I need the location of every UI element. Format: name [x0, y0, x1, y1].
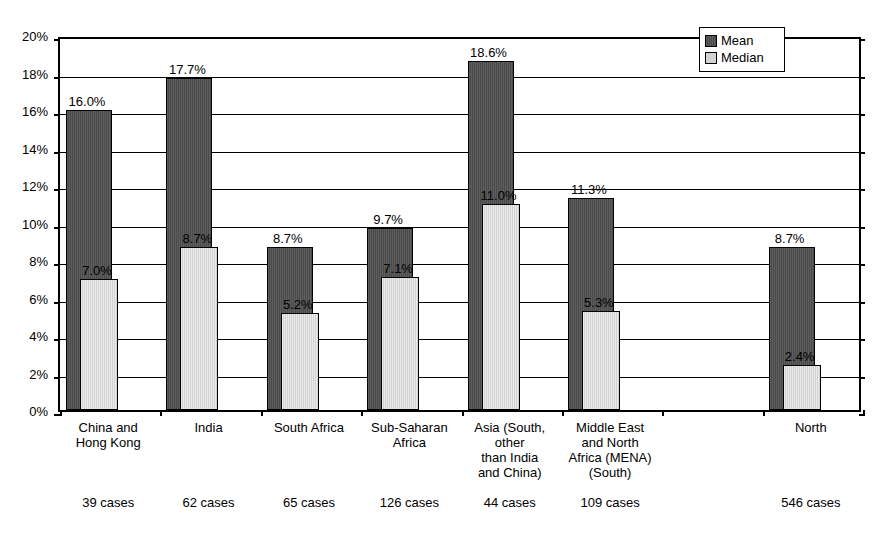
y-axis-tick — [54, 264, 60, 266]
y-axis-tick-label: 0% — [0, 405, 48, 418]
x-axis-tick — [863, 410, 865, 416]
y-axis-tick — [54, 114, 60, 116]
y-axis-tick-right — [859, 339, 865, 341]
y-axis-tick — [54, 302, 60, 304]
bar-label-mean: 9.7% — [358, 213, 418, 226]
y-axis-tick-label: 4% — [0, 330, 48, 343]
bar-label-median: 11.0% — [469, 189, 529, 202]
y-axis-tick-right — [859, 189, 865, 191]
y-axis-tick — [54, 152, 60, 154]
y-axis-tick-right — [859, 152, 865, 154]
bar-label-median: 2.4% — [770, 350, 830, 363]
category-cases-label: 44 cases — [455, 495, 565, 510]
legend-swatch-mean-icon — [705, 35, 717, 47]
bar-label-median: 7.1% — [368, 262, 428, 275]
category-cases-label: 65 cases — [254, 495, 364, 510]
x-axis-category-label: India — [154, 420, 264, 435]
x-axis-category-label: North — [756, 420, 866, 435]
chart-legend: Mean Median — [699, 27, 785, 72]
y-axis-tick-right — [859, 264, 865, 266]
x-axis-tick — [60, 410, 62, 416]
legend-item-median: Median — [705, 49, 779, 66]
y-axis-tick-right — [859, 377, 865, 379]
x-axis-tick — [763, 410, 765, 416]
y-axis-tick-right — [859, 227, 865, 229]
x-axis-category-label: Asia (South, other than India and China) — [455, 420, 565, 480]
y-axis-tick — [54, 227, 60, 229]
bar-label-mean: 8.7% — [760, 232, 820, 245]
bar-label-mean: 16.0% — [57, 95, 117, 108]
x-axis-category-label: South Africa — [254, 420, 364, 435]
bar-label-mean: 11.3% — [559, 183, 619, 196]
y-axis-tick-right — [859, 39, 865, 41]
y-axis-tick-label: 8% — [0, 255, 48, 268]
bar-label-mean: 18.6% — [459, 46, 519, 59]
y-axis-tick — [54, 39, 60, 41]
bar-label-mean: 8.7% — [258, 232, 318, 245]
legend-label-mean: Mean — [721, 34, 754, 47]
y-axis-tick — [54, 189, 60, 191]
bar-median — [281, 313, 319, 411]
legend-swatch-median-icon — [705, 52, 717, 64]
y-axis-tick-label: 14% — [0, 143, 48, 156]
legend-label-median: Median — [721, 51, 764, 64]
category-cases-label: 39 cases — [53, 495, 163, 510]
y-axis-tick — [54, 77, 60, 79]
y-axis-tick-label: 10% — [0, 218, 48, 231]
y-axis-tick — [54, 377, 60, 379]
y-axis-tick-label: 6% — [0, 293, 48, 306]
bar-median — [783, 365, 821, 410]
y-axis-tick-label: 18% — [0, 68, 48, 81]
legend-item-mean: Mean — [705, 32, 779, 49]
bar-label-median: 7.0% — [67, 264, 127, 277]
y-axis-tick-label: 12% — [0, 180, 48, 193]
x-axis-tick — [361, 410, 363, 416]
category-cases-label: 546 cases — [756, 495, 866, 510]
bar-median — [582, 311, 620, 410]
x-axis-tick — [662, 410, 664, 416]
x-axis-tick — [261, 410, 263, 416]
bar-median — [80, 279, 118, 410]
bar-chart: 0%2%4%6%8%10%12%14%16%18%20%16.0%7.0%Chi… — [0, 0, 885, 544]
y-axis-tick-right — [859, 302, 865, 304]
y-axis-tick-right — [859, 77, 865, 79]
bar-label-median: 8.7% — [167, 232, 227, 245]
x-axis-category-label: China and Hong Kong — [53, 420, 163, 450]
category-cases-label: 109 cases — [555, 495, 665, 510]
x-axis-category-label: Sub-Saharan Africa — [354, 420, 464, 450]
x-axis-tick — [462, 410, 464, 416]
y-axis-tick-label: 16% — [0, 105, 48, 118]
bar-median — [482, 204, 520, 410]
bar-label-median: 5.2% — [268, 298, 328, 311]
category-cases-label: 126 cases — [354, 495, 464, 510]
y-axis-tick-label: 20% — [0, 30, 48, 43]
y-axis-tick — [54, 339, 60, 341]
y-axis-tick-right — [859, 114, 865, 116]
x-axis-tick — [160, 410, 162, 416]
plot-area — [58, 37, 861, 412]
bar-median — [180, 247, 218, 410]
x-axis-category-label: Middle East and North Africa (MENA) (Sou… — [555, 420, 665, 480]
y-axis-tick-label: 2% — [0, 368, 48, 381]
bar-label-median: 5.3% — [569, 296, 629, 309]
bar-median — [381, 277, 419, 410]
bar-label-mean: 17.7% — [157, 63, 217, 76]
category-cases-label: 62 cases — [154, 495, 264, 510]
x-axis-tick — [562, 410, 564, 416]
